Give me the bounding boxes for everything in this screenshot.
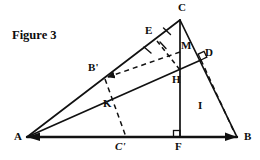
tick-on-EH-a [144,47,151,53]
solid-lines-group [27,20,237,137]
point-label-K: K [103,98,112,109]
point-label-M: M [181,40,192,51]
point-label-B: B [244,131,252,142]
point-label-E: E [145,25,153,36]
figure-caption: Figure 3 [12,29,57,42]
point-label-I: I [198,100,202,111]
dashed-lines-group [105,41,235,137]
point-label-D: D [205,47,213,58]
segment-AD-cevian [27,60,201,137]
point-label-C: C [178,2,186,13]
point-label-C-prime: C' [115,141,126,152]
geometry-diagram [0,0,260,160]
point-label-B-prime: B' [88,62,99,73]
point-label-A: A [14,131,22,142]
point-label-F: F [175,141,182,152]
figure-container: Figure 3 A B C D E F H I K M B' C' [0,0,260,160]
point-label-H: H [172,74,181,85]
